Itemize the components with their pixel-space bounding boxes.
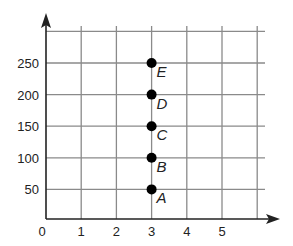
y-tick-label: 150 [17,119,39,134]
data-point-c: C [147,121,168,143]
x-tick-label: 0 [38,224,45,239]
x-tick-label: 1 [78,224,85,239]
x-tick-label: 5 [218,224,225,239]
y-tick-label: 250 [17,56,39,71]
data-point-b: B [147,153,167,175]
point-marker [147,121,157,131]
data-points: ABCDE [147,58,168,206]
point-marker [147,184,157,194]
point-marker [147,90,157,100]
point-label: A [156,189,167,206]
x-tick-label: 4 [183,224,190,239]
data-point-e: E [147,58,168,80]
x-tick-label: 3 [148,224,155,239]
point-label: E [157,63,168,80]
x-tick-labels: 012345 [38,224,225,239]
x-tick-label: 2 [113,224,120,239]
point-marker [147,153,157,163]
point-label: B [157,158,167,175]
point-marker [147,58,157,68]
data-point-a: A [147,184,167,206]
point-label: D [157,95,168,112]
y-tick-labels: 50100150200250 [17,56,39,197]
data-point-d: D [147,90,168,112]
coordinate-grid-chart: 012345 50100150200250 ABCDE [0,0,293,246]
y-tick-label: 100 [17,151,39,166]
point-label: C [157,126,168,143]
y-tick-label: 200 [17,88,39,103]
y-tick-label: 50 [25,182,39,197]
